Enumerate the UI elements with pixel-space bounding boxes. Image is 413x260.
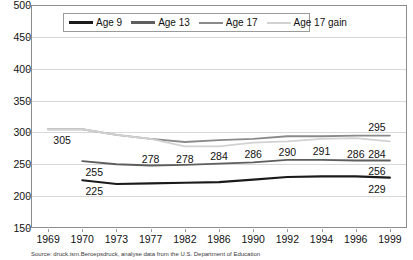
x-tick-mark bbox=[390, 229, 391, 232]
data-point-label: 229 bbox=[368, 183, 386, 195]
x-tick-mark bbox=[287, 229, 288, 232]
legend-label: Age 13 bbox=[158, 17, 190, 28]
data-point-label: 256 bbox=[368, 165, 386, 177]
y-axis: 150200250300350400450500 bbox=[0, 0, 31, 235]
data-point-label: 286 bbox=[347, 148, 365, 160]
source-note: Source: druck.ism.Beroepsdruck, analyse … bbox=[31, 250, 411, 258]
legend-swatch-icon bbox=[267, 22, 291, 24]
data-point-label: 225 bbox=[86, 185, 104, 197]
x-tick-label: 1977 bbox=[139, 233, 162, 245]
chart-legend[interactable]: Age 9Age 13Age 17Age 17 gain bbox=[63, 13, 310, 32]
legend-label: Age 9 bbox=[96, 17, 122, 28]
x-tick-label: 1999 bbox=[378, 233, 401, 245]
legend-item-age-9[interactable]: Age 9 bbox=[69, 17, 122, 28]
data-point-label: 284 bbox=[368, 148, 386, 160]
legend-label: Age 17 gain bbox=[294, 17, 347, 28]
data-point-label: 284 bbox=[210, 150, 228, 162]
x-tick-mark bbox=[151, 229, 152, 232]
x-tick-label: 1973 bbox=[105, 233, 128, 245]
data-point-label: 305 bbox=[53, 134, 71, 146]
x-axis: 1969197019731977198219861990199219941996… bbox=[31, 229, 407, 247]
x-tick-label: 1982 bbox=[173, 233, 196, 245]
x-tick-mark bbox=[253, 229, 254, 232]
chart-container: 150200250300350400450500 305255225278278… bbox=[0, 0, 413, 260]
x-tick-label: 1992 bbox=[276, 233, 299, 245]
x-tick-label: 1990 bbox=[241, 233, 264, 245]
x-tick-mark bbox=[185, 229, 186, 232]
x-tick-label: 1994 bbox=[310, 233, 333, 245]
legend-swatch-icon bbox=[199, 22, 223, 24]
data-point-label: 286 bbox=[244, 148, 262, 160]
legend-item-age-17-gain[interactable]: Age 17 gain bbox=[267, 17, 347, 28]
data-point-label: 291 bbox=[313, 145, 331, 157]
legend-item-age-13[interactable]: Age 13 bbox=[131, 17, 190, 28]
x-tick-mark bbox=[356, 229, 357, 232]
x-tick-mark bbox=[322, 229, 323, 232]
gridline bbox=[32, 132, 406, 133]
legend-label: Age 17 bbox=[226, 17, 258, 28]
legend-swatch-icon bbox=[131, 21, 155, 24]
data-point-label: 290 bbox=[279, 146, 297, 158]
legend-swatch-icon bbox=[69, 21, 93, 24]
x-tick-mark bbox=[82, 229, 83, 232]
x-tick-label: 1969 bbox=[36, 233, 59, 245]
x-tick-mark bbox=[48, 229, 49, 232]
legend-item-age-17[interactable]: Age 17 bbox=[199, 17, 258, 28]
x-tick-label: 1970 bbox=[71, 233, 94, 245]
data-point-label: 295 bbox=[368, 121, 386, 133]
gridline bbox=[32, 69, 406, 70]
x-tick-label: 1996 bbox=[344, 233, 367, 245]
data-point-label: 278 bbox=[176, 153, 194, 165]
x-tick-label: 1986 bbox=[207, 233, 230, 245]
x-tick-mark bbox=[219, 229, 220, 232]
x-tick-mark bbox=[116, 229, 117, 232]
gridline bbox=[32, 101, 406, 102]
data-point-label: 255 bbox=[86, 166, 104, 178]
data-point-label: 278 bbox=[142, 153, 160, 165]
gridline bbox=[32, 37, 406, 38]
